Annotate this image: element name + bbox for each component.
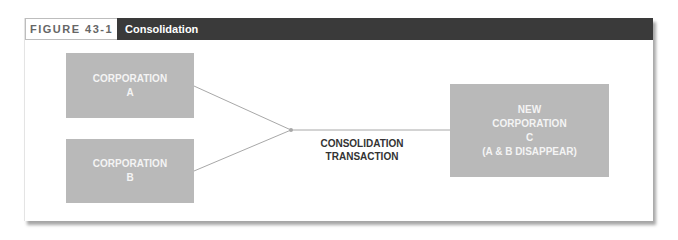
consolidation-transaction-label: CONSOLIDATION TRANSACTION xyxy=(312,137,412,163)
corporation-b-box: CORPORATION B xyxy=(66,139,194,203)
box-a-line1: CORPORATION xyxy=(93,72,167,86)
corporation-a-box: CORPORATION A xyxy=(66,53,194,118)
new-corporation-c-box: NEW CORPORATION C (A & B DISAPPEAR) xyxy=(450,84,609,177)
box-c-line1: NEW xyxy=(518,103,541,117)
box-c-line3: C xyxy=(526,131,533,145)
box-b-line2: B xyxy=(126,171,133,185)
box-a-line2: A xyxy=(126,86,133,100)
connector-a xyxy=(194,86,291,130)
box-c-line2: CORPORATION xyxy=(492,117,566,131)
transaction-line1: CONSOLIDATION xyxy=(312,137,412,150)
junction-point xyxy=(289,128,293,132)
connector-b xyxy=(194,130,291,171)
box-b-line1: CORPORATION xyxy=(93,157,167,171)
transaction-line2: TRANSACTION xyxy=(312,150,412,163)
box-c-line4: (A & B DISAPPEAR) xyxy=(482,145,577,159)
